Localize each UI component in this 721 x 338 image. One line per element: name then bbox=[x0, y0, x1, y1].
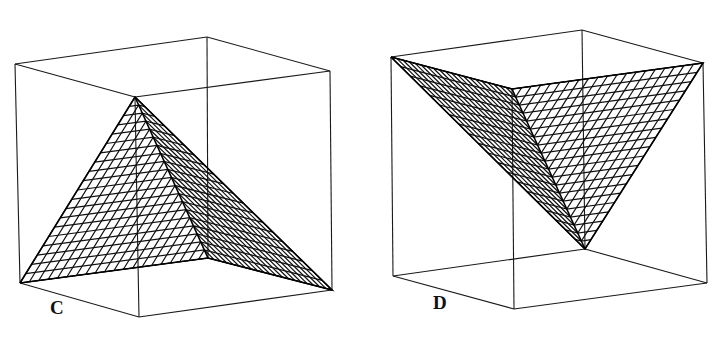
cube-edge bbox=[207, 37, 208, 258]
cube-edge bbox=[582, 30, 703, 63]
panel-label-c: C bbox=[50, 297, 64, 319]
panel-c-pyramid bbox=[15, 37, 332, 317]
cube-edge bbox=[514, 283, 707, 309]
cube-edge bbox=[391, 30, 582, 57]
cube-edge bbox=[330, 71, 332, 290]
cube-edge bbox=[391, 57, 393, 276]
cube-edge bbox=[15, 64, 20, 283]
cube-edge bbox=[585, 249, 707, 283]
cube-edge bbox=[703, 63, 707, 283]
cube-edge bbox=[135, 71, 330, 97]
cube-edge bbox=[393, 276, 514, 309]
mesh-line bbox=[415, 63, 608, 217]
mesh-line bbox=[500, 82, 691, 105]
cube-edge bbox=[139, 290, 332, 317]
figure-canvas bbox=[0, 0, 721, 338]
cube-edge bbox=[15, 37, 207, 64]
mesh-line bbox=[86, 153, 204, 274]
cube-edge bbox=[15, 64, 135, 97]
cube-edge bbox=[20, 283, 139, 317]
cube-edge bbox=[207, 37, 330, 71]
mesh-line bbox=[517, 72, 636, 193]
panel-label-d: D bbox=[433, 292, 447, 314]
cube-edge bbox=[393, 249, 585, 276]
panel-d-inverted-pyramid bbox=[391, 30, 707, 309]
